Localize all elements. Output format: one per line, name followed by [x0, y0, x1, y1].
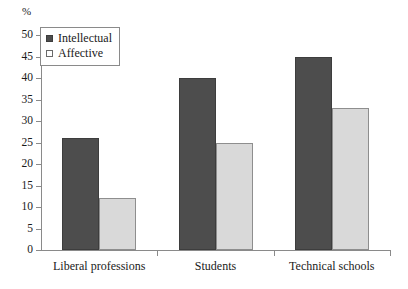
y-tick-label: 45: [0, 51, 33, 63]
x-category-label: Technical schools: [274, 259, 390, 273]
y-tick-label: 5: [0, 223, 33, 235]
y-tick-label: 15: [0, 180, 33, 192]
chart-legend: Intellectual Affective: [40, 27, 120, 66]
bar-intellectual: [295, 57, 332, 251]
x-tick-mark: [157, 250, 158, 256]
y-tick-label: 25: [0, 137, 33, 149]
legend-label-intellectual: Intellectual: [58, 32, 112, 45]
legend-swatch-affective-icon: [46, 50, 53, 57]
y-tick-label: 20: [0, 158, 33, 170]
bar-affective: [332, 108, 369, 250]
y-tick-label: 10: [0, 201, 33, 213]
bar-intellectual: [62, 138, 99, 250]
x-axis-line: [41, 250, 390, 251]
y-tick-label: 40: [0, 72, 33, 84]
legend-item-intellectual: Intellectual: [46, 31, 112, 46]
bar-affective: [99, 198, 136, 250]
y-tick-label: 30: [0, 115, 33, 127]
legend-label-affective: Affective: [58, 47, 103, 60]
bar-intellectual: [179, 78, 216, 250]
y-tick-label: 0: [0, 244, 33, 256]
y-tick-mark: [36, 250, 42, 251]
plot-area: [41, 35, 390, 250]
x-tick-mark: [390, 250, 391, 256]
bar-affective: [216, 143, 253, 251]
x-category-label: Students: [157, 259, 273, 273]
x-tick-mark: [274, 250, 275, 256]
x-category-label: Liberal professions: [41, 259, 157, 273]
y-tick-label: 35: [0, 94, 33, 106]
legend-item-affective: Affective: [46, 46, 112, 61]
y-axis-unit-label: %: [22, 6, 31, 17]
legend-swatch-intellectual-icon: [46, 35, 53, 42]
y-tick-label: 50: [0, 29, 33, 41]
bar-chart: % 05101520253035404550 Liberal professio…: [0, 0, 408, 289]
